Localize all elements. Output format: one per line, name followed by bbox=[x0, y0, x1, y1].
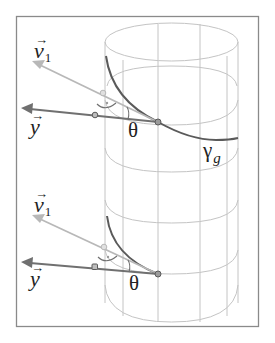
geodesic-curve-top bbox=[106, 56, 238, 140]
cylinder-ring bbox=[105, 200, 238, 223]
point-curve-top bbox=[155, 119, 161, 125]
geodesic-curve-bottom bbox=[107, 216, 158, 274]
label-v1-bottom: →v1 bbox=[34, 194, 51, 218]
cylinder-ring bbox=[105, 100, 238, 125]
cylinder-top-rim bbox=[105, 23, 238, 61]
point-y-foot-top bbox=[92, 112, 98, 118]
vector-arrow-glyph: → bbox=[35, 33, 48, 46]
cylinder-bottom-rim bbox=[105, 285, 238, 322]
label-gamma-g: γg bbox=[203, 140, 221, 166]
cylinder bbox=[105, 23, 238, 322]
point-v1-foot-bottom bbox=[101, 244, 107, 250]
label-y-bottom: →y bbox=[30, 268, 40, 290]
v1-vector-top bbox=[40, 65, 158, 122]
point-curve-bottom bbox=[155, 271, 161, 277]
label-theta-top: θ bbox=[128, 120, 138, 141]
cylinder-inner-ring bbox=[107, 66, 237, 86]
label-v1-top: →v1 bbox=[34, 40, 51, 64]
point-v1-foot-top bbox=[100, 90, 106, 96]
label-theta-bottom: θ bbox=[129, 273, 139, 294]
right-angle-dot-top bbox=[106, 102, 108, 104]
vector-arrow-glyph: → bbox=[31, 109, 44, 122]
vector-arrow-glyph: → bbox=[31, 261, 44, 274]
label-y-top: →y bbox=[30, 116, 40, 138]
vector-arrow-glyph: → bbox=[35, 187, 48, 200]
point-y-foot-bottom bbox=[92, 264, 98, 270]
right-angle-dot-bottom bbox=[107, 256, 109, 258]
